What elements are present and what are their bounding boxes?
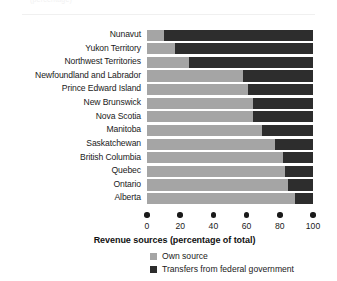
x-axis: 020406080100 [0,209,337,235]
bar-segment-federal-transfers [283,152,313,163]
legend-swatch-transfer [150,266,157,273]
axis-tick-label: 100 [306,221,320,231]
axis-tick-marker [144,212,150,218]
legend-swatch-own [150,253,157,260]
axis-tick-label: 60 [242,221,252,231]
axis-tick-marker [244,212,250,218]
bar-segment-federal-transfers [253,98,313,109]
bar-row-label: Yukon Territory [0,43,141,55]
bar-segment-own-source [147,30,164,41]
bar-row-label: Alberta [0,192,141,204]
legend-label: Own source [162,251,208,261]
bar-track [147,70,313,81]
bar-segment-own-source [147,125,262,136]
bar-track [147,166,313,177]
bar-row: Newfoundland and Labrador [0,70,337,84]
bar-segment-own-source [147,152,283,163]
axis-tick-marker [211,212,217,218]
axis-tick-marker [177,212,183,218]
bar-segment-federal-transfers [243,70,313,81]
bar-track [147,43,313,54]
bar-segment-federal-transfers [288,179,313,190]
legend-item: Transfers from federal government [150,263,337,275]
bar-track [147,98,313,109]
bar-row-label: Northwest Territories [0,56,141,68]
x-axis-title: Revenue sources (percentage of total) [0,235,337,245]
plot-area: NunavutYukon TerritoryNorthwest Territor… [0,29,337,209]
bar-row: Nova Scotia [0,111,337,125]
x-axis-title-text: Revenue sources (percentage of total) [82,235,256,245]
bar-segment-own-source [147,84,248,95]
bar-track [147,125,313,136]
axis-tick-label: 20 [175,221,185,231]
axis-tick-label: 80 [275,221,285,231]
bar-row-label: Nova Scotia [0,111,141,123]
bar-segment-federal-transfers [175,43,313,54]
chart-figure: (percentage) NunavutYukon TerritoryNorth… [0,0,337,281]
bar-row: Saskatchewan [0,138,337,152]
bar-row-label: British Columbia [0,152,141,164]
bar-row: Yukon Territory [0,43,337,57]
bar-row-label: Prince Edward Island [0,83,141,95]
bar-segment-own-source [147,139,275,150]
bar-segment-own-source [147,166,285,177]
bar-row-label: New Brunswick [0,97,141,109]
bar-row: Quebec [0,165,337,179]
bar-track [147,152,313,163]
bar-row-label: Newfoundland and Labrador [0,70,141,82]
bar-row: Northwest Territories [0,56,337,70]
axis-tick-label: 0 [145,221,150,231]
clipped-caption-text: (percentage) [30,0,150,6]
bar-segment-federal-transfers [295,193,313,204]
bar-segment-own-source [147,98,253,109]
axis-tick-marker [277,212,283,218]
bar-row: British Columbia [0,152,337,166]
bar-row-label: Manitoba [0,124,141,136]
bar-track [147,84,313,95]
bar-segment-federal-transfers [189,57,314,68]
bar-row: Prince Edward Island [0,83,337,97]
bar-segment-federal-transfers [253,111,313,122]
bar-row: Nunavut [0,29,337,43]
bar-segment-own-source [147,43,175,54]
legend-label: Transfers from federal government [162,264,294,274]
axis-tick-marker [310,212,316,218]
bar-track [147,111,313,122]
bar-segment-own-source [147,70,243,81]
bar-row: Ontario [0,179,337,193]
bar-row-label: Nunavut [0,29,141,41]
bar-track [147,57,313,68]
bar-segment-federal-transfers [275,139,313,150]
bar-row-label: Ontario [0,179,141,191]
bar-track [147,30,313,41]
bar-row-label: Quebec [0,165,141,177]
bar-segment-own-source [147,193,295,204]
axis-tick-label: 40 [209,221,219,231]
bar-row: Alberta [0,192,337,206]
bar-track [147,193,313,204]
chart-legend: Own sourceTransfers from federal governm… [150,250,337,276]
bar-row-label: Saskatchewan [0,138,141,150]
bar-segment-federal-transfers [164,30,313,41]
bar-segment-own-source [147,111,253,122]
legend-item: Own source [150,250,337,262]
bar-segment-federal-transfers [285,166,313,177]
bar-segment-own-source [147,57,189,68]
bar-row: New Brunswick [0,97,337,111]
bar-segment-federal-transfers [262,125,313,136]
bar-row: Manitoba [0,124,337,138]
bar-track [147,179,313,190]
bar-segment-own-source [147,179,288,190]
top-divider [22,14,315,15]
bar-track [147,139,313,150]
bar-segment-federal-transfers [248,84,313,95]
